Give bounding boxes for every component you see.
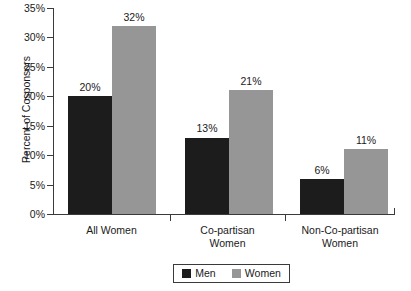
legend-swatch-icon xyxy=(232,269,241,278)
x-axis-separator-tick xyxy=(285,215,286,221)
legend-label: Men xyxy=(195,268,215,279)
bar-chart: Percent of Cosponsors 35%30%25%20%15%10%… xyxy=(0,0,411,291)
y-axis-line xyxy=(53,8,54,215)
x-group-label-line: Women xyxy=(285,237,395,250)
bar-value-label: 20% xyxy=(60,82,120,93)
y-tick-mark xyxy=(47,37,53,38)
y-tick-mark xyxy=(47,126,53,127)
bar-value-label: 6% xyxy=(292,165,352,176)
x-axis-separator-tick xyxy=(170,215,171,221)
y-tick-mark xyxy=(47,67,53,68)
bar-men-group-1 xyxy=(68,96,112,214)
y-tick-label: 25% xyxy=(2,62,45,73)
y-tick-mark xyxy=(47,96,53,97)
y-tick-mark xyxy=(47,8,53,9)
bar-men-group-2 xyxy=(185,138,229,215)
bar-women-group-3 xyxy=(344,149,388,214)
x-group-label: Non-Co-partisanWomen xyxy=(285,224,395,249)
bar-women-group-1 xyxy=(112,26,156,214)
y-axis-title: Percent of Cosponsors xyxy=(21,20,32,200)
y-tick-label: 10% xyxy=(2,150,45,161)
x-group-label-line: Women xyxy=(170,237,285,250)
bar-women-group-2 xyxy=(229,90,273,214)
x-group-label-line: All Women xyxy=(53,224,170,237)
x-axis-end-tick xyxy=(394,208,395,215)
legend-entry-women: Women xyxy=(232,268,281,279)
legend-label: Women xyxy=(245,268,281,279)
bar-value-label: 11% xyxy=(336,135,396,146)
x-axis-line xyxy=(53,214,395,215)
y-tick-label: 15% xyxy=(2,121,45,132)
x-group-label: Co-partisanWomen xyxy=(170,224,285,249)
bar-value-label: 13% xyxy=(177,123,237,134)
y-tick-label: 30% xyxy=(2,32,45,43)
y-tick-label: 35% xyxy=(2,3,45,14)
bar-men-group-3 xyxy=(300,179,344,214)
x-group-label: All Women xyxy=(53,224,170,237)
legend-swatch-icon xyxy=(182,269,191,278)
bar-value-label: 21% xyxy=(221,76,281,87)
x-group-label-line: Non-Co-partisan xyxy=(285,224,395,237)
chart-legend: MenWomen xyxy=(173,264,290,283)
y-tick-mark xyxy=(47,185,53,186)
y-tick-label: 5% xyxy=(2,180,45,191)
y-tick-label: 0% xyxy=(2,209,45,220)
x-group-label-line: Co-partisan xyxy=(170,224,285,237)
y-tick-label: 20% xyxy=(2,91,45,102)
y-tick-mark xyxy=(47,155,53,156)
bar-value-label: 32% xyxy=(104,12,164,23)
legend-entry-men: Men xyxy=(182,268,215,279)
